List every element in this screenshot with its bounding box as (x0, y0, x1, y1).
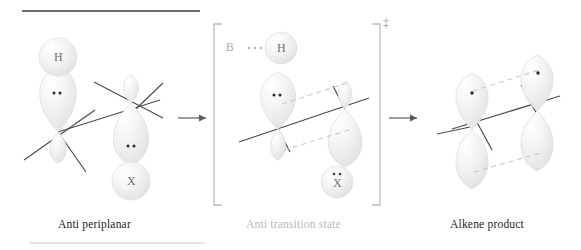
panel-alkene-product (437, 55, 560, 189)
atom-label-h-middle: H (277, 41, 286, 56)
base-label-b: B (226, 41, 235, 53)
lone-pair-dot (133, 145, 136, 148)
lone-pair-dot (273, 94, 276, 97)
orbital-lobe (456, 73, 488, 129)
double-dagger-symbol: ‡ (383, 16, 389, 31)
lone-pair-dot (339, 173, 342, 176)
orbital-lobe (521, 111, 553, 171)
atom-label-x-middle: X (333, 176, 342, 191)
base-bond-dot (248, 47, 250, 49)
lone-pair-dot (59, 92, 62, 95)
bracket-right (372, 24, 380, 205)
caption-alkene-product: Alkene product (450, 218, 524, 230)
orbital-lobe (328, 109, 362, 167)
base-bond-dot (254, 47, 256, 49)
single-electron-dot (470, 91, 473, 94)
orbital-diagram-svg (0, 0, 581, 250)
bracket-left (214, 24, 222, 205)
orbital-lobe (260, 72, 295, 129)
base-bond-dot (260, 47, 262, 49)
caption-anti-periplanar: Anti periplanar (58, 218, 131, 230)
atom-label-x-left: X (127, 174, 136, 189)
figure-canvas: H X B H X ‡ Anti periplanar Anti transit… (0, 0, 581, 250)
single-electron-dot (536, 71, 539, 74)
orbital-lobe (113, 103, 148, 165)
lone-pair-dot (333, 173, 336, 176)
lone-pair-dot (53, 92, 56, 95)
panel-anti-transition-state (214, 24, 380, 205)
orbital-lobe-small (271, 129, 286, 160)
orbital-lobe-small (50, 132, 67, 163)
orbital-lobe (521, 55, 553, 111)
lone-pair-dot (127, 145, 130, 148)
caption-anti-transition-state: Anti transition state (246, 218, 341, 230)
orbital-lobe (456, 129, 488, 189)
atom-label-h-left: H (54, 50, 63, 65)
panel-anti-periplanar (24, 38, 163, 200)
lone-pair-dot (279, 94, 282, 97)
